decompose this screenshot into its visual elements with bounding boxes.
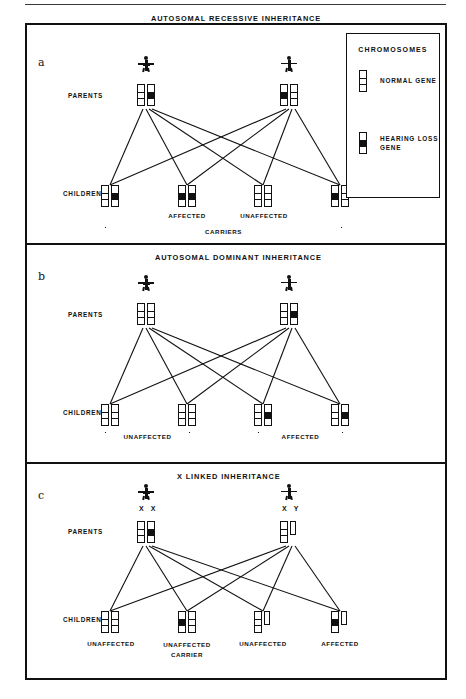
child-chromosomes-b-3 — [254, 404, 272, 426]
parents-row-label-a: PARENTS — [68, 92, 103, 99]
chromosome-x-hearing-loss — [178, 611, 186, 633]
chromosome-normal — [188, 404, 196, 426]
chromosome-hearing-loss — [178, 185, 186, 207]
sex-chromosome-label-mother-c: X X — [139, 505, 158, 512]
parent-chromosomes-father-b — [280, 303, 298, 325]
child-chromosomes-b-4 — [331, 404, 349, 426]
chromosome-normal — [147, 303, 155, 325]
chromosome-y — [264, 611, 270, 625]
bracket-label-affected-b: AFFECTED — [279, 433, 323, 440]
parent-chromosomes-father-a — [280, 84, 298, 106]
chromosome-x-hearing-loss — [147, 521, 155, 543]
panel-letter-c: c — [38, 489, 44, 502]
child-caption-c-3: UNAFFECTED — [232, 640, 294, 647]
child-chromosomes-c-1 — [101, 611, 119, 633]
legend-icon-normal-gene — [359, 70, 367, 92]
chromosome-normal — [254, 404, 262, 426]
children-row-label-a: CHILDREN — [63, 190, 102, 197]
chromosome-normal — [280, 303, 288, 325]
chromosome-normal — [111, 404, 119, 426]
chromosome-normal — [331, 404, 339, 426]
child-caption-c-2: UNAFFECTED CARRIER — [156, 640, 218, 660]
chromosome-normal — [137, 303, 145, 325]
legend-label-hearing-loss-gene: HEARING LOSS GENE — [380, 134, 438, 152]
panel-title-b: AUTOSOMAL DOMINANT INHERITANCE — [155, 253, 322, 262]
parent-figure-mother-a — [138, 56, 154, 72]
chromosome-hearing-loss — [359, 132, 367, 154]
chromosome-y — [341, 611, 347, 625]
chromosome-hearing-loss — [188, 185, 196, 207]
chromosome-hearing-loss — [341, 404, 349, 426]
child-caption-a-3: UNAFFECTED — [233, 212, 295, 219]
chromosome-normal — [137, 84, 145, 106]
panel-title-c: X LINKED INHERITANCE — [177, 472, 281, 481]
parent-figure-mother-b — [138, 275, 154, 291]
panel-separator-b-c — [25, 462, 447, 464]
child-caption-c-1: UNAFFECTED — [80, 640, 142, 647]
child-chromosomes-b-1 — [101, 404, 119, 426]
bracket-label-unaffected-b: UNAFFECTED — [121, 433, 175, 440]
child-chromosomes-c-3 — [254, 611, 270, 633]
child-caption-c-4: AFFECTED — [309, 640, 371, 647]
chromosome-x-normal — [188, 611, 196, 633]
child-chromosomes-a-2 — [178, 185, 196, 207]
panel-letter-a: a — [38, 56, 45, 69]
chromosome-hearing-loss — [264, 404, 272, 426]
child-chromosomes-a-3 — [254, 185, 272, 207]
chromosome-hearing-loss — [111, 185, 119, 207]
chromosome-x-normal — [254, 611, 262, 633]
parents-row-label-c: PARENTS — [68, 528, 103, 535]
parent-chromosomes-mother-a — [137, 84, 155, 106]
chromosome-normal — [254, 185, 262, 207]
chromosome-x-normal — [101, 611, 109, 633]
parents-row-label-b: PARENTS — [68, 311, 103, 318]
parent-chromosomes-mother-c — [137, 521, 155, 543]
children-row-label-b: CHILDREN — [63, 409, 102, 416]
chromosome-hearing-loss — [290, 303, 298, 325]
chromosome-hearing-loss — [331, 185, 339, 207]
panel-separator-a-b — [25, 243, 447, 245]
children-row-label-c: CHILDREN — [63, 616, 102, 623]
panel-letter-b: b — [38, 270, 45, 283]
bracket-label-carriers-a: CARRIERS — [202, 228, 245, 235]
legend-box: CHROMOSOMES NORMAL GENE HEARING LOSS GEN… — [346, 33, 440, 198]
chromosome-normal — [264, 185, 272, 207]
parent-chromosomes-mother-b — [137, 303, 155, 325]
chromosome-x-normal — [137, 521, 145, 543]
parent-figure-father-c — [281, 484, 297, 500]
chromosome-hearing-loss — [280, 84, 288, 106]
panel-title-a: AUTOSOMAL RECESSIVE INHERITANCE — [151, 14, 321, 23]
child-chromosomes-b-2 — [178, 404, 196, 426]
chromosome-y — [290, 521, 296, 535]
chromosome-normal — [101, 185, 109, 207]
child-caption-a-2: AFFECTED — [157, 212, 217, 219]
parent-figure-mother-c — [138, 484, 154, 500]
chromosome-hearing-loss — [147, 84, 155, 106]
chromosome-normal — [178, 404, 186, 426]
child-chromosomes-c-4 — [331, 611, 347, 633]
chromosome-x-normal — [111, 611, 119, 633]
chromosome-normal — [101, 404, 109, 426]
legend-label-normal-gene: NORMAL GENE — [380, 76, 437, 85]
chromosome-normal — [359, 70, 367, 92]
legend-title: CHROMOSOMES — [347, 46, 439, 53]
chromosome-x-normal — [280, 521, 288, 543]
parent-figure-father-b — [281, 275, 297, 291]
figure-page: a AUTOSOMAL RECESSIVE INHERITANCE PARENT… — [0, 0, 466, 699]
sex-chromosome-label-father-c: X Y — [282, 505, 301, 512]
legend-icon-hearing-loss-gene — [359, 132, 367, 154]
chromosome-x-hearing-loss — [331, 611, 339, 633]
page-top-rule — [25, 4, 446, 5]
chromosome-normal — [290, 84, 298, 106]
child-chromosomes-c-2 — [178, 611, 196, 633]
parent-chromosomes-father-c — [280, 521, 296, 543]
child-chromosomes-a-1 — [101, 185, 119, 207]
parent-figure-father-a — [281, 56, 297, 72]
